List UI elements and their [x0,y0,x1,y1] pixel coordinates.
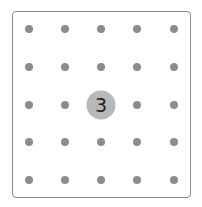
grid-dot[interactable] [25,138,33,146]
grid-dot[interactable] [25,25,33,33]
numbered-node[interactable]: 3 [87,91,116,120]
grid-dot[interactable] [61,176,69,184]
grid-dot[interactable] [170,176,178,184]
grid-dot[interactable] [170,63,178,71]
grid-dot[interactable] [97,63,105,71]
grid-dot[interactable] [61,138,69,146]
grid-dot[interactable] [25,176,33,184]
grid-dot[interactable] [97,25,105,33]
grid-dot[interactable] [61,101,69,109]
grid-dot[interactable] [170,101,178,109]
grid-dot[interactable] [61,63,69,71]
grid-dot[interactable] [133,138,141,146]
grid-dot[interactable] [133,25,141,33]
grid-dot[interactable] [61,25,69,33]
grid-dot[interactable] [97,138,105,146]
grid-dot[interactable] [170,25,178,33]
grid-dot[interactable] [133,101,141,109]
grid-dot[interactable] [25,101,33,109]
grid-dot[interactable] [25,63,33,71]
grid-dot[interactable] [133,176,141,184]
grid-dot[interactable] [97,176,105,184]
grid-dot[interactable] [170,138,178,146]
grid-dot[interactable] [133,63,141,71]
